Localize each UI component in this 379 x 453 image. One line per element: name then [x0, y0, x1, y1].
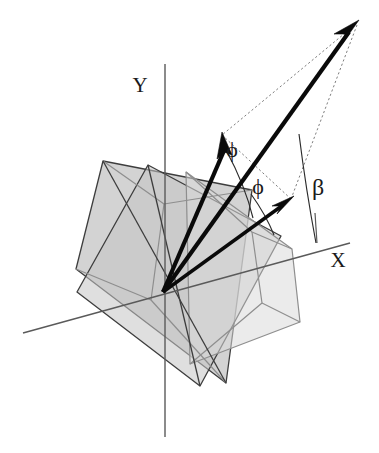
vector-2-arrowhead: [334, 20, 359, 44]
vector-diagram-canvas: Y X ϕ ϕ β: [0, 0, 379, 453]
guide-tip-to-vector3: [291, 25, 357, 199]
phi-upper-label: ϕ: [226, 137, 238, 162]
x-axis-label: X: [330, 248, 345, 272]
phi-lower-label: ϕ: [252, 174, 264, 199]
vector-diagram-figure: Y X ϕ ϕ β: [0, 0, 379, 453]
beta-label: β: [312, 174, 324, 200]
y-axis-label: Y: [132, 73, 147, 97]
